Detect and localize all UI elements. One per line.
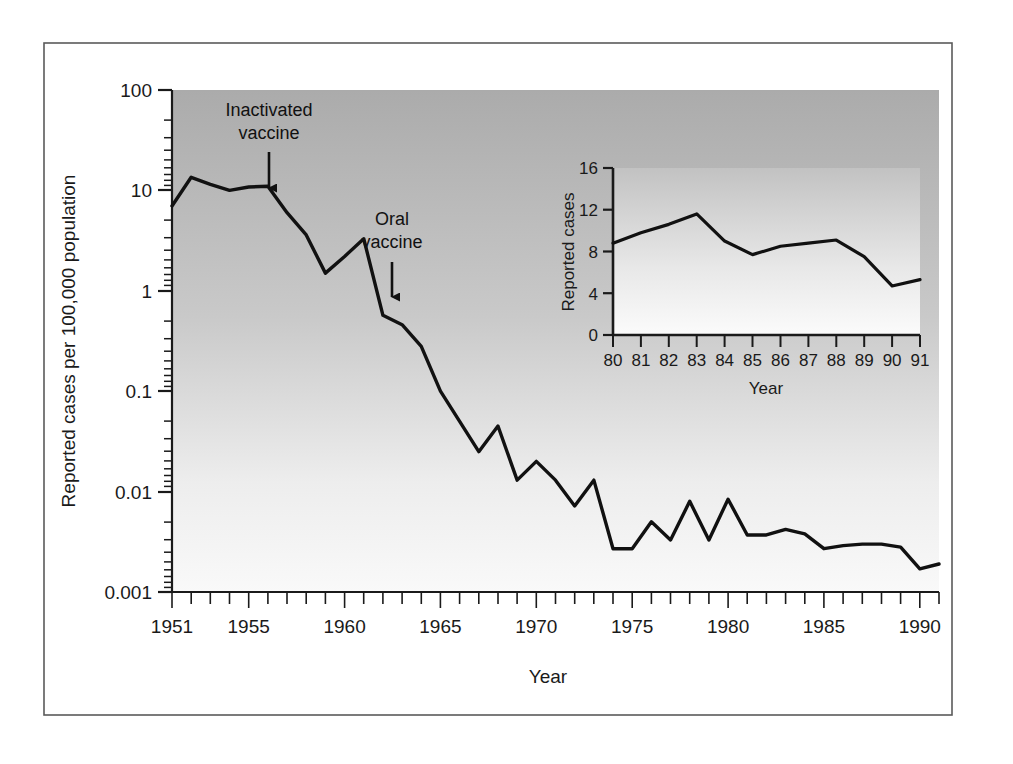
inset-x-tick-label: 90 — [883, 351, 902, 370]
x-tick-label: 1970 — [515, 616, 557, 637]
x-tick-label: 1985 — [803, 616, 845, 637]
main-plot-background — [172, 90, 939, 592]
inset-x-tick-label: 82 — [659, 351, 678, 370]
x-tick-label: 1951 — [151, 616, 193, 637]
inset-y-tick-label: 8 — [589, 243, 598, 262]
inset-x-tick-label: 81 — [631, 351, 650, 370]
inset-x-tick-label: 80 — [604, 351, 623, 370]
inset-x-tick-label: 87 — [799, 351, 818, 370]
inset-x-tick-label: 83 — [687, 351, 706, 370]
inset-x-tick-label: 89 — [855, 351, 874, 370]
inset-x-tick-label: 84 — [715, 351, 734, 370]
y-tick-label: 1 — [141, 281, 152, 302]
inset-y-tick-label: 0 — [589, 326, 598, 345]
x-tick-label: 1955 — [228, 616, 270, 637]
inset-x-tick-label: 86 — [771, 351, 790, 370]
inset-y-axis-title: Reported cases — [559, 192, 578, 311]
y-axis-title: Reported cases per 100,000 population — [58, 175, 79, 508]
x-tick-label: 1990 — [899, 616, 941, 637]
x-axis-title: Year — [529, 666, 568, 687]
annotation-line1: Inactivated — [225, 100, 312, 120]
inset-x-tick-label: 91 — [911, 351, 930, 370]
inset-y-tick-label: 16 — [579, 159, 598, 178]
figure-container: 100 10 1 0.1 0.01 0.001 Reported cases p… — [0, 0, 1013, 764]
inset-y-tick-label: 4 — [589, 285, 598, 304]
inset-x-axis-title: Year — [749, 379, 784, 398]
x-tick-label: 1975 — [611, 616, 653, 637]
inset-x-tick-label: 88 — [827, 351, 846, 370]
y-tick-label: 100 — [120, 80, 152, 101]
inset-x-tick-label: 85 — [743, 351, 762, 370]
x-tick-label: 1960 — [323, 616, 365, 637]
inset-y-tick-label: 12 — [579, 201, 598, 220]
y-tick-label: 10 — [131, 180, 152, 201]
annotation-line2: vaccine — [361, 232, 422, 252]
polio-incidence-chart: 100 10 1 0.1 0.01 0.001 Reported cases p… — [0, 0, 1013, 764]
x-tick-label: 1965 — [419, 616, 461, 637]
x-tick-label: 1980 — [707, 616, 749, 637]
annotation-line1: Oral — [375, 209, 409, 229]
y-tick-label: 0.01 — [115, 482, 152, 503]
annotation-line2: vaccine — [238, 123, 299, 143]
y-tick-label: 0.1 — [126, 381, 152, 402]
y-tick-label: 0.001 — [104, 582, 152, 603]
